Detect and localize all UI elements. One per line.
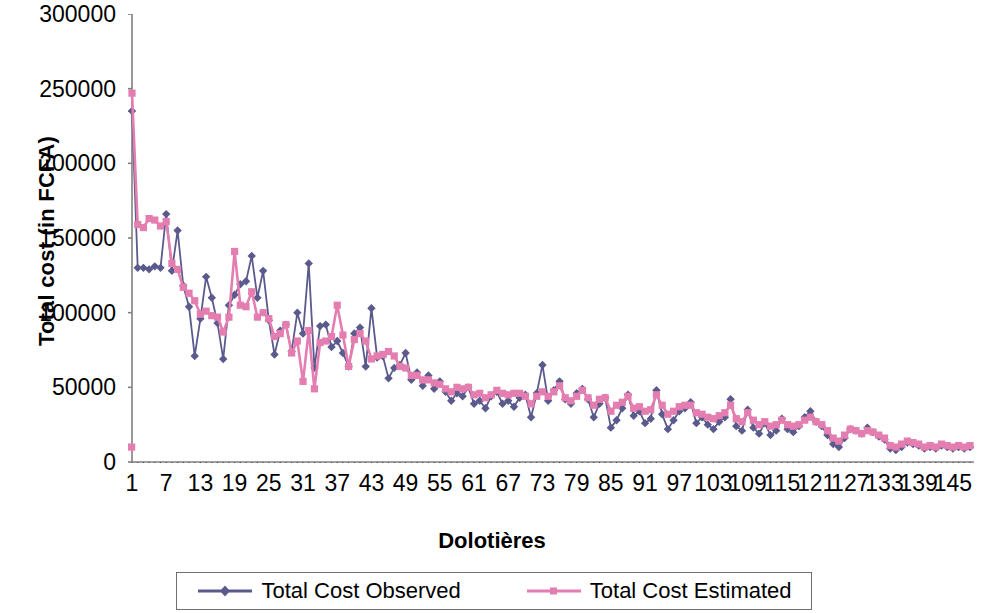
chart-legend: Total Cost Observed Total Cost Estimated [176, 572, 812, 610]
x-tick-label: 37 [324, 470, 350, 496]
legend-item-estimated: Total Cost Estimated [525, 580, 792, 602]
y-tick-label: 100000 [39, 301, 116, 324]
y-tick-label: 150000 [39, 227, 116, 250]
x-tick-label: 67 [495, 470, 521, 496]
x-tick-label: 49 [393, 470, 419, 496]
y-axis-tick-labels: 050000100000150000200000250000300000 [0, 0, 122, 480]
legend-label-estimated: Total Cost Estimated [590, 580, 792, 602]
legend-swatch-observed-icon [196, 583, 254, 599]
x-axis-tick-labels: 1713192531374349556167737985919710310911… [128, 470, 984, 504]
chart-figure: Total cost (in FCFA) 0500001000001500002… [0, 0, 984, 613]
x-tick-label: 19 [222, 470, 248, 496]
y-tick-label: 200000 [39, 152, 116, 175]
x-tick-label: 121 [797, 470, 835, 496]
x-tick-label: 139 [900, 470, 938, 496]
x-tick-label: 145 [934, 470, 972, 496]
x-tick-label: 115 [764, 470, 801, 496]
plot-svg [128, 14, 976, 463]
x-tick-label: 25 [256, 470, 282, 496]
x-tick-label: 79 [564, 470, 590, 496]
x-tick-label: 91 [632, 470, 658, 496]
x-tick-label: 7 [160, 470, 173, 496]
x-tick-label: 43 [359, 470, 385, 496]
series-observed [128, 107, 974, 454]
y-tick-label: 50000 [52, 376, 116, 399]
legend-item-observed: Total Cost Observed [196, 580, 460, 602]
x-tick-label: 73 [530, 470, 556, 496]
legend-swatch-estimated-icon [525, 583, 583, 599]
plot-area [128, 14, 976, 463]
x-tick-label: 133 [865, 470, 903, 496]
x-axis-title: Dolotières [0, 528, 984, 554]
x-tick-label: 103 [694, 470, 732, 496]
x-tick-label: 109 [728, 470, 766, 496]
x-tick-label: 55 [427, 470, 453, 496]
y-tick-label: 250000 [39, 77, 116, 100]
x-tick-label: 1 [126, 470, 139, 496]
x-tick-label: 97 [666, 470, 692, 496]
x-tick-label: 31 [290, 470, 316, 496]
x-tick-label: 127 [831, 470, 869, 496]
legend-label-observed: Total Cost Observed [261, 580, 460, 602]
x-tick-label: 13 [188, 470, 214, 496]
x-tick-label: 61 [461, 470, 487, 496]
series-estimated [128, 90, 974, 451]
y-tick-label: 300000 [39, 3, 116, 26]
y-tick-label: 0 [103, 451, 116, 474]
x-tick-label: 85 [598, 470, 624, 496]
